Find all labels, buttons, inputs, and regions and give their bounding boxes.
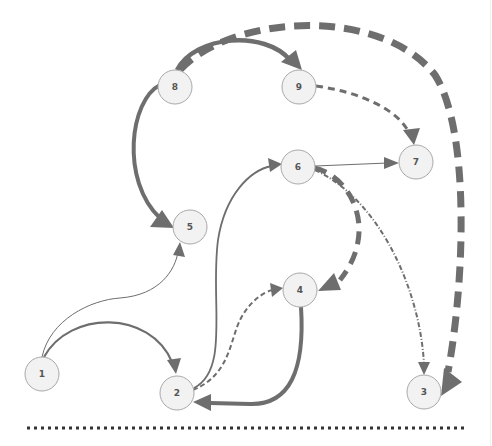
node-5[interactable]: 5 bbox=[173, 210, 207, 244]
edge-6-to-4 bbox=[314, 168, 359, 291]
edge-4-to-2 bbox=[193, 307, 302, 411]
edge-6-to-7 bbox=[315, 157, 399, 169]
edge-9-to-7 bbox=[316, 86, 420, 145]
node-label: 4 bbox=[297, 285, 303, 295]
arrowhead-icon bbox=[403, 128, 420, 145]
edge-2-to-4 bbox=[193, 283, 283, 390]
arrowhead-icon bbox=[268, 158, 282, 172]
arrowhead-icon bbox=[418, 362, 430, 375]
node-label: 1 bbox=[39, 369, 45, 379]
node-label: 7 bbox=[413, 157, 419, 167]
node-8[interactable]: 8 bbox=[158, 70, 192, 104]
edge-8-to-5 bbox=[134, 85, 174, 228]
arrowhead-icon bbox=[193, 394, 211, 411]
node-2[interactable]: 2 bbox=[160, 376, 194, 410]
graph-canvas: 8 9 6 7 5 4 1 2 bbox=[0, 0, 492, 446]
node-label: 2 bbox=[174, 388, 180, 398]
edge-1-to-2 bbox=[44, 322, 181, 374]
arrowhead-icon bbox=[270, 283, 283, 297]
edge-8-to-3 bbox=[180, 26, 462, 396]
node-label: 8 bbox=[172, 82, 178, 92]
arrowhead-icon bbox=[167, 358, 181, 374]
edge-1-to-5 bbox=[42, 242, 185, 357]
node-3[interactable]: 3 bbox=[407, 375, 441, 409]
node-label: 3 bbox=[421, 387, 427, 397]
node-1[interactable]: 1 bbox=[25, 357, 59, 391]
edges bbox=[42, 26, 462, 411]
arrowhead-icon bbox=[384, 157, 399, 169]
arrowhead-icon bbox=[173, 242, 185, 257]
edge-8-to-9 bbox=[177, 40, 302, 70]
node-6[interactable]: 6 bbox=[281, 150, 315, 184]
node-7[interactable]: 7 bbox=[399, 145, 433, 179]
edge-6-to-3 bbox=[315, 170, 430, 375]
arrowhead-icon bbox=[318, 273, 341, 291]
node-9[interactable]: 9 bbox=[282, 70, 316, 104]
node-label: 9 bbox=[296, 82, 302, 92]
node-4[interactable]: 4 bbox=[283, 273, 317, 307]
node-label: 6 bbox=[295, 162, 301, 172]
node-label: 5 bbox=[187, 222, 193, 232]
edge-2-to-6 bbox=[194, 158, 282, 388]
nodes: 8 9 6 7 5 4 1 2 bbox=[25, 70, 441, 410]
